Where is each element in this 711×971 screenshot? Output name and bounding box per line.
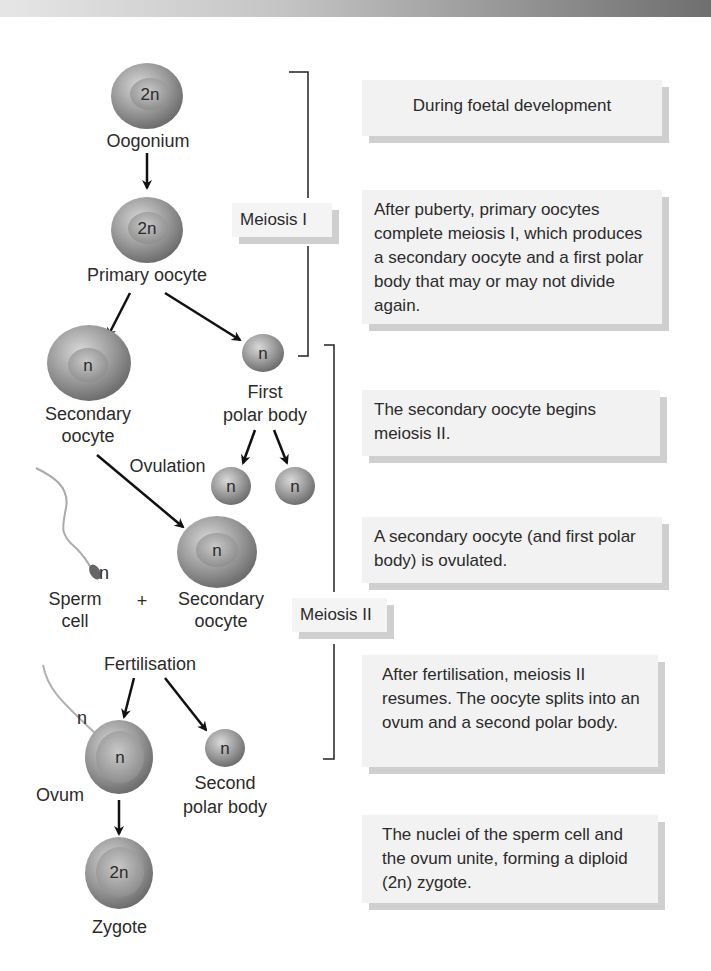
note-begins-meiosis-2: The secondary oocyte begins meiosis II. bbox=[362, 390, 660, 456]
ploidy-label: n bbox=[212, 541, 221, 560]
ovum-label: Ovum bbox=[28, 784, 92, 806]
oogonium-label: Oogonium bbox=[98, 130, 198, 152]
ploidy-label: n bbox=[290, 477, 299, 496]
zygote-label: Zygote bbox=[72, 916, 167, 938]
meiosis-2-bracket bbox=[323, 644, 334, 759]
second-polar-body-label-line1: Second bbox=[180, 772, 270, 794]
second-polar-body-label-line2: polar body bbox=[170, 796, 280, 818]
ploidy-label: n bbox=[258, 344, 267, 363]
meiosis-1-label: Meiosis I bbox=[232, 203, 332, 237]
meiosis-1-bracket bbox=[298, 246, 308, 356]
ovum-sperm-ploidy-label: n bbox=[74, 707, 90, 729]
ploidy-label: n bbox=[115, 748, 124, 767]
primary-oocyte-cell: 2n bbox=[111, 197, 183, 263]
secondary-oocyte-label-line2: oocyte bbox=[38, 425, 138, 447]
arrow-icon bbox=[165, 678, 206, 730]
sperm-ploidy-label: n bbox=[99, 562, 115, 584]
sperm-cell-icon bbox=[36, 468, 103, 581]
note-foetal-development: During foetal development bbox=[362, 80, 662, 136]
ploidy-label: n bbox=[220, 739, 229, 758]
ploidy-label: 2n bbox=[138, 219, 157, 238]
first-polar-body-cell: n bbox=[242, 334, 284, 372]
note-meiosis-1: After puberty, primary oocytes complete … bbox=[362, 190, 662, 324]
note-zygote: The nuclei of the sperm cell and the ovu… bbox=[362, 815, 658, 903]
ploidy-label: n bbox=[83, 356, 92, 375]
meiosis-1-bracket bbox=[289, 72, 308, 198]
secondary-oocyte-2-label-line2: oocyte bbox=[166, 610, 276, 632]
ovulation-label: Ovulation bbox=[120, 455, 215, 477]
second-polar-body-cell: n bbox=[205, 729, 245, 767]
polar-body-division-cell: n bbox=[211, 467, 251, 505]
primary-oocyte-label: Primary oocyte bbox=[77, 264, 217, 286]
fertilisation-label: Fertilisation bbox=[90, 653, 210, 675]
meiosis-2-bracket bbox=[324, 345, 334, 592]
arrow-icon bbox=[243, 430, 255, 463]
first-polar-body-label-line1: First bbox=[220, 381, 310, 403]
secondary-oocyte-cell: n bbox=[47, 325, 131, 401]
ovulated-secondary-oocyte-cell: n bbox=[177, 516, 257, 588]
oogonium-cell: 2n bbox=[111, 63, 183, 129]
secondary-oocyte-label-line1: Secondary bbox=[38, 403, 138, 425]
sperm-label-line1: Sperm bbox=[40, 588, 110, 610]
ovum-cell: n bbox=[43, 665, 153, 794]
polar-body-division-cell: n bbox=[275, 467, 315, 505]
arrow-icon bbox=[165, 293, 240, 340]
secondary-oocyte-2-label-line1: Secondary bbox=[166, 588, 276, 610]
note-ovulated: A secondary oocyte (and first polar body… bbox=[362, 517, 662, 583]
note-fertilisation: After fertilisation, meiosis II resumes.… bbox=[362, 655, 658, 767]
meiosis-2-label: Meiosis II bbox=[292, 598, 387, 632]
sperm-label-line2: cell bbox=[40, 610, 110, 632]
zygote-cell: 2n bbox=[85, 837, 153, 909]
ploidy-label: n bbox=[226, 477, 235, 496]
arrow-icon bbox=[124, 678, 134, 717]
ploidy-label: 2n bbox=[141, 85, 160, 104]
ploidy-label: 2n bbox=[110, 863, 129, 882]
arrow-icon bbox=[274, 430, 287, 463]
first-polar-body-label-line2: polar body bbox=[210, 404, 320, 426]
arrow-icon bbox=[108, 293, 130, 336]
plus-sign: + bbox=[132, 590, 152, 612]
